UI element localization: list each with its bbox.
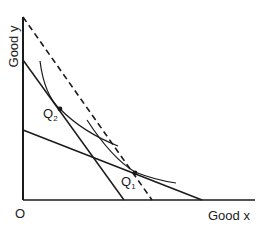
budget-line-steep (23, 60, 124, 200)
indifference-curve-lower (87, 120, 176, 183)
point-q1-letter: Q (121, 174, 131, 189)
point-q2-subscript: 2 (53, 114, 57, 123)
point-q1-subscript: 1 (131, 182, 135, 191)
indifference-curve-upper (40, 61, 118, 146)
origin-label: O (15, 207, 25, 220)
point-q1-label: Q1 (121, 175, 136, 188)
budget-line-shallow (23, 130, 202, 200)
point-q2-letter: Q (43, 106, 53, 121)
y-axis-label: Good y (7, 23, 20, 71)
x-axis-label: Good x (208, 209, 250, 222)
point-q2 (58, 107, 63, 112)
diagram-canvas (0, 0, 261, 238)
point-q2-label: Q2 (43, 107, 58, 120)
